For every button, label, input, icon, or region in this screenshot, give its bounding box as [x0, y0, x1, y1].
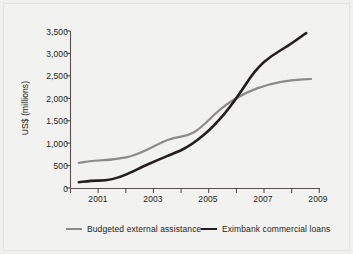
series-line-budgeted-external-assistance: [79, 79, 311, 163]
x-axis-ticks: [71, 189, 320, 194]
chart-figure: US$ (millions) 3,500 3,000 2,500 2,000 1…: [0, 0, 353, 254]
legend-label: Eximbank commercial loans: [222, 224, 330, 234]
legend-item-budgeted-external-assistance: Budgeted external assistance: [66, 224, 201, 234]
plot-area: US$ (millions) 3,500 3,000 2,500 2,000 1…: [0, 0, 353, 254]
legend-label: Budgeted external assistance: [87, 224, 201, 234]
y-axis-ticks: [66, 31, 71, 188]
legend-item-eximbank-commercial-loans: Eximbank commercial loans: [201, 224, 330, 234]
chart-canvas: [0, 0, 353, 254]
legend-swatch-icon: [201, 228, 217, 230]
legend-swatch-icon: [66, 228, 82, 230]
